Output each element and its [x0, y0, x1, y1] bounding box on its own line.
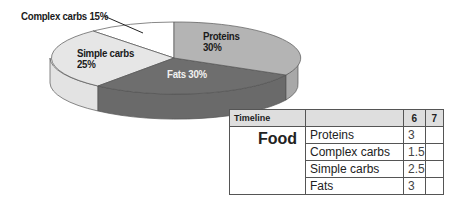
- header-col-7: 7: [425, 110, 443, 127]
- label-simple-carbs-pct: 25%: [77, 59, 96, 70]
- label-proteins-pct: 30%: [203, 42, 222, 53]
- row-item: Fats: [306, 178, 404, 195]
- category-food: Food: [230, 127, 306, 195]
- header-timeline: Timeline: [230, 110, 306, 127]
- header-col-6: 6: [404, 110, 426, 127]
- header-blank: [306, 110, 404, 127]
- row-value-7: [425, 161, 443, 178]
- label-complex-carbs: Complex carbs 15%: [21, 11, 108, 22]
- table-row: Food Proteins 3: [230, 127, 444, 144]
- row-value-7: [425, 127, 443, 144]
- label-fats: Fats 30%: [167, 69, 207, 80]
- row-item: Proteins: [306, 127, 404, 144]
- row-value-7: [425, 144, 443, 161]
- row-value-6: 3: [404, 178, 426, 195]
- row-value-6: 2.5: [404, 161, 426, 178]
- table-header-row: Timeline 6 7: [230, 110, 444, 127]
- food-timeline-table: Timeline 6 7 Food Proteins 3 Complex car…: [229, 109, 444, 195]
- row-value-6: 1.5: [404, 144, 426, 161]
- row-value-6: 3: [404, 127, 426, 144]
- row-value-7: [425, 178, 443, 195]
- row-item: Complex carbs: [306, 144, 404, 161]
- row-item: Simple carbs: [306, 161, 404, 178]
